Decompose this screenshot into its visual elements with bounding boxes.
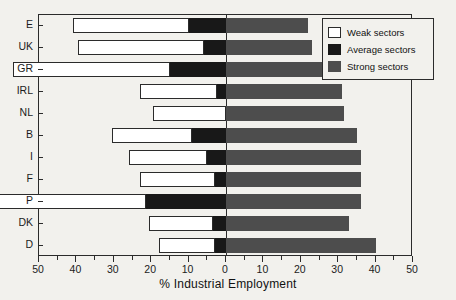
x-axis-label: 0 xyxy=(210,263,240,275)
x-axis-tick xyxy=(113,256,114,262)
legend-swatch-weak-icon xyxy=(328,27,341,38)
bar-segment-strong xyxy=(226,238,376,253)
bar-row xyxy=(39,103,411,125)
y-axis-label-d: D xyxy=(0,239,33,250)
bar-segment-weak xyxy=(149,216,213,231)
bar-segment-average xyxy=(215,172,226,187)
bar-segment-weak xyxy=(140,172,215,187)
bar-segment-strong xyxy=(226,172,361,187)
y-axis-tick xyxy=(38,135,43,136)
industrial-employment-chart: EUKGRIRLNLBIFPDKD 504030201001020304050 … xyxy=(0,0,456,300)
x-axis-minor-tick xyxy=(244,256,245,260)
x-axis-minor-tick xyxy=(319,256,320,260)
bar-segment-average xyxy=(170,62,226,77)
y-axis-label-e: E xyxy=(0,19,33,30)
bar-segment-strong xyxy=(226,106,344,121)
legend-label-strong: Strong sectors xyxy=(347,61,408,72)
y-axis-label-i: I xyxy=(0,151,33,162)
legend-item-average: Average sectors xyxy=(328,41,429,57)
y-axis-tick xyxy=(38,201,43,202)
bar-segment-strong xyxy=(226,18,308,33)
y-axis-label-irl: IRL xyxy=(0,85,33,96)
x-axis-title: % Industrial Employment xyxy=(0,277,456,291)
x-axis-label: 10 xyxy=(247,263,277,275)
chart-legend: Weak sectors Average sectors Strong sect… xyxy=(322,18,434,80)
legend-swatch-average-icon xyxy=(328,44,341,55)
legend-item-weak: Weak sectors xyxy=(328,24,429,40)
x-axis-minor-tick xyxy=(169,256,170,260)
bar-row xyxy=(39,125,411,147)
bar-segment-strong xyxy=(226,62,323,77)
x-axis-minor-tick xyxy=(393,256,394,260)
y-axis-label-f: F xyxy=(0,173,33,184)
bar-segment-average xyxy=(192,128,226,143)
bar-row xyxy=(39,235,411,257)
bar-segment-weak xyxy=(153,106,226,121)
y-axis-tick xyxy=(38,25,43,26)
y-axis-label-b: B xyxy=(0,129,33,140)
bar-segment-weak xyxy=(112,128,192,143)
bar-segment-weak xyxy=(73,18,189,33)
x-axis-minor-tick xyxy=(57,256,58,260)
bar-segment-strong xyxy=(226,84,342,99)
bar-row xyxy=(39,147,411,169)
y-axis-label-uk: UK xyxy=(0,41,33,52)
y-axis-label-nl: NL xyxy=(0,107,33,118)
bar-segment-weak xyxy=(78,40,203,55)
bar-segment-average xyxy=(204,40,226,55)
bar-segment-strong xyxy=(226,150,361,165)
x-axis-label: 20 xyxy=(135,263,165,275)
bar-segment-weak xyxy=(159,238,215,253)
legend-label-average: Average sectors xyxy=(347,44,415,55)
bar-segment-average xyxy=(213,216,226,231)
x-axis-tick xyxy=(262,256,263,262)
bar-segment-average xyxy=(217,84,226,99)
y-axis-tick xyxy=(38,157,43,158)
bar-segment-strong xyxy=(226,194,361,209)
x-axis-label: 40 xyxy=(60,263,90,275)
bar-segment-strong xyxy=(226,128,357,143)
bar-row xyxy=(39,81,411,103)
legend-label-weak: Weak sectors xyxy=(347,27,404,38)
x-axis-label: 40 xyxy=(360,263,390,275)
y-axis-tick xyxy=(38,91,43,92)
y-axis-tick xyxy=(38,245,43,246)
bar-segment-average xyxy=(215,238,226,253)
bar-row xyxy=(39,191,411,213)
x-axis-tick xyxy=(337,256,338,262)
y-axis-tick xyxy=(38,113,43,114)
bar-segment-weak xyxy=(140,84,217,99)
bar-row xyxy=(39,169,411,191)
x-axis-label: 30 xyxy=(98,263,128,275)
x-axis-minor-tick xyxy=(132,256,133,260)
y-axis-label-p: P xyxy=(0,195,33,206)
x-axis-label: 10 xyxy=(173,263,203,275)
bar-row xyxy=(39,213,411,235)
x-axis-minor-tick xyxy=(281,256,282,260)
x-axis-tick xyxy=(188,256,189,262)
x-axis-label: 30 xyxy=(322,263,352,275)
y-axis-label-dk: DK xyxy=(0,217,33,228)
bar-segment-average xyxy=(146,194,226,209)
legend-swatch-strong-icon xyxy=(328,61,341,72)
x-axis-label: 20 xyxy=(285,263,315,275)
y-axis-tick xyxy=(38,47,43,48)
y-axis-tick xyxy=(38,179,43,180)
x-axis-minor-tick xyxy=(356,256,357,260)
bar-segment-weak xyxy=(129,150,208,165)
y-axis-tick xyxy=(38,223,43,224)
x-axis-tick xyxy=(38,256,39,262)
bar-segment-weak xyxy=(13,62,170,77)
x-axis-label: 50 xyxy=(397,263,427,275)
y-axis-tick xyxy=(38,69,43,70)
bar-segment-average xyxy=(207,150,226,165)
x-axis-tick xyxy=(412,256,413,262)
x-axis-tick xyxy=(225,256,226,262)
bar-segment-strong xyxy=(226,216,349,231)
x-axis-minor-tick xyxy=(206,256,207,260)
bar-segment-strong xyxy=(226,40,312,55)
legend-item-strong: Strong sectors xyxy=(328,58,429,74)
x-axis-tick xyxy=(75,256,76,262)
x-axis-minor-tick xyxy=(94,256,95,260)
x-axis-tick xyxy=(300,256,301,262)
